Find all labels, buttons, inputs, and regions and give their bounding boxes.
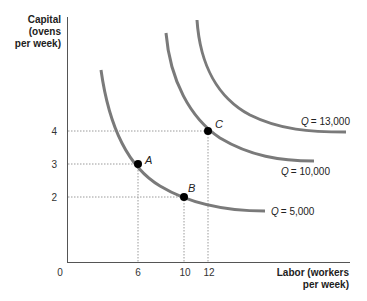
point-b-marker — [180, 193, 188, 201]
isoquant-q5000-label: Q= 5,000 — [271, 206, 315, 217]
y-axis-label-line2: (ovens — [29, 26, 62, 37]
point-a-marker — [134, 160, 142, 168]
isoquant-q10000 — [166, 33, 314, 161]
point-b-label: B — [188, 182, 195, 194]
y-axis-label-line3: per week) — [15, 38, 61, 49]
point-c-marker — [204, 127, 212, 135]
point-a-label: A — [144, 154, 152, 166]
isoquant-chart: A B C Q= 5,000 Q= 10,000 Q= 13,000 2 3 4… — [0, 0, 367, 301]
x-tick-10: 10 — [179, 267, 191, 278]
x-tick-12: 12 — [203, 267, 215, 278]
x-tick-6: 6 — [135, 267, 141, 278]
x-axis-label-line1: Labor (workers — [277, 267, 350, 278]
y-tick-2: 2 — [51, 192, 57, 203]
y-tick-3: 3 — [51, 159, 57, 170]
isoquant-q13000-label: Q= 13,000 — [301, 116, 350, 127]
isoquant-q5000 — [101, 70, 265, 211]
origin-label: 0 — [57, 267, 63, 278]
x-axis-label-line2: per week) — [303, 279, 349, 290]
y-tick-4: 4 — [51, 126, 57, 137]
point-c-label: C — [215, 118, 223, 130]
y-axis-label-line1: Capital — [28, 14, 62, 25]
isoquant-q10000-label: Q= 10,000 — [281, 166, 330, 177]
